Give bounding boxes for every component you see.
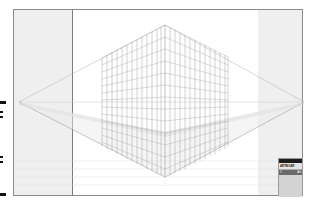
canvas-frame[interactable] <box>13 9 303 196</box>
ruler-marker <box>0 156 3 158</box>
ruler-marker <box>0 116 3 118</box>
artboard-index: 1 <box>280 170 282 175</box>
artboards-tab[interactable]: ARTBOAR <box>279 163 302 170</box>
artboards-panel[interactable]: ARTBOAR 1 Art <box>278 158 303 196</box>
ruler-marker <box>0 111 3 113</box>
panel-body <box>279 175 302 197</box>
ruler-marker <box>0 101 6 104</box>
perspective-grid[interactable] <box>14 10 304 197</box>
artboard-name: Art <box>297 170 301 175</box>
ruler-marker <box>0 193 6 196</box>
ruler-marker <box>0 161 3 163</box>
